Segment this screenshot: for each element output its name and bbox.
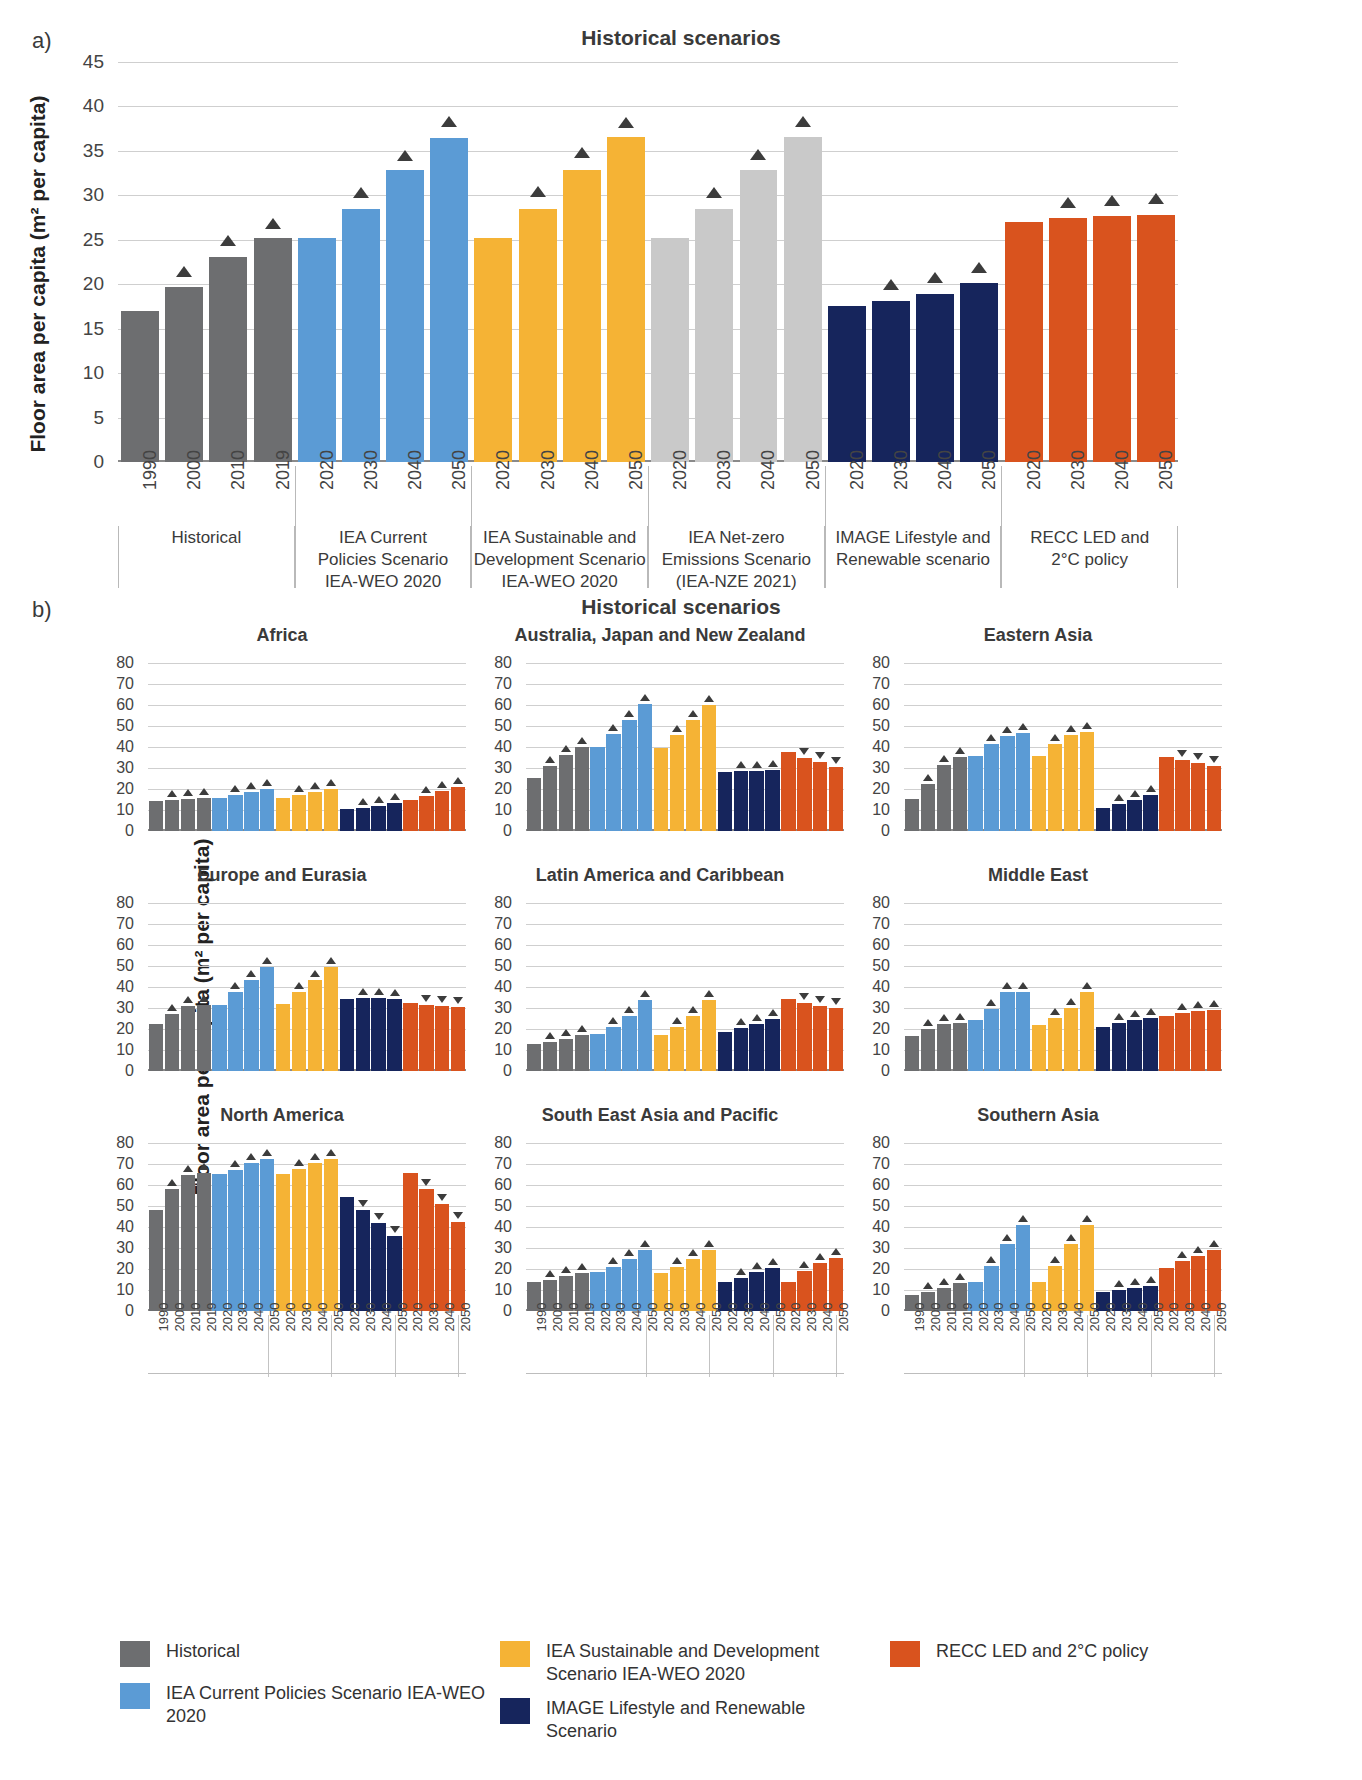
- scenario-group-label: Historical: [118, 526, 295, 588]
- y-tick: 10: [494, 1041, 512, 1059]
- y-tick: 20: [116, 1260, 134, 1278]
- trend-marker-up: [1114, 1013, 1124, 1020]
- trend-marker-up: [1066, 1234, 1076, 1241]
- bar: [356, 808, 370, 831]
- trend-marker-up: [545, 1270, 555, 1277]
- x-tick-label: 2000: [184, 450, 205, 490]
- y-tick: 60: [116, 1176, 134, 1194]
- trend-marker-down: [799, 748, 809, 755]
- x-tick: 2040: [621, 1315, 637, 1385]
- x-tick-label: 2030: [361, 450, 382, 490]
- subplot-plot-area: [904, 653, 1222, 831]
- bar-cell: [828, 1133, 844, 1311]
- y-tick: 0: [503, 1062, 512, 1080]
- y-tick: 30: [116, 999, 134, 1017]
- bar-cell: [701, 893, 717, 1071]
- panel-a-y-tick: 45: [83, 51, 104, 73]
- bar-cell: [243, 893, 259, 1071]
- legend-swatch: [500, 1641, 530, 1667]
- trend-marker-up: [1177, 1003, 1187, 1010]
- trend-marker-up: [262, 1149, 272, 1156]
- x-tick: 2020: [212, 1315, 228, 1385]
- bar-cell: [307, 1133, 323, 1311]
- bar: [527, 1044, 541, 1071]
- trend-marker-up: [199, 1163, 209, 1170]
- bar: [386, 170, 424, 462]
- trend-marker-up: [310, 970, 320, 977]
- legend-swatch: [120, 1641, 150, 1667]
- x-tick-label: 2010: [228, 450, 249, 490]
- bar: [651, 238, 689, 462]
- bar: [1016, 992, 1030, 1071]
- bar-cell: [701, 653, 717, 831]
- bar-cell: [1143, 653, 1159, 831]
- trend-marker-up: [736, 1018, 746, 1025]
- x-tick-label: 2020: [317, 450, 338, 490]
- bar-cell: [812, 893, 828, 1071]
- bar-cell: [685, 1133, 701, 1311]
- y-tick: 30: [116, 1239, 134, 1257]
- bar: [695, 209, 733, 462]
- y-tick: 40: [494, 978, 512, 996]
- x-tick: 2030: [1174, 1315, 1190, 1385]
- group-separator: [1001, 466, 1002, 588]
- bar: [149, 801, 163, 831]
- trend-marker-up: [246, 970, 256, 977]
- bar: [606, 1027, 620, 1071]
- trend-marker-up: [561, 1266, 571, 1273]
- panel-a-y-tick: 15: [83, 318, 104, 340]
- bar-cell: [355, 653, 371, 831]
- x-tick: 2019: [574, 1315, 590, 1385]
- bar-cell: [1031, 653, 1047, 831]
- trend-marker-up: [453, 777, 463, 784]
- y-tick: 10: [872, 1041, 890, 1059]
- subplot-plot-area: [148, 653, 466, 831]
- bar: [937, 1024, 951, 1071]
- group-separator: [1087, 1315, 1088, 1377]
- trend-marker-up: [220, 235, 236, 246]
- x-tick: 2020: [1031, 1315, 1047, 1385]
- legend-swatch: [500, 1698, 530, 1724]
- scenario-group-line: IEA Net-zero: [649, 527, 824, 549]
- bar-cell: [1159, 1133, 1175, 1311]
- bar-cell: [1111, 893, 1127, 1071]
- bar-cell: [637, 653, 653, 831]
- scenario-group-line: Historical: [119, 527, 294, 549]
- bar-cell: [387, 1133, 403, 1311]
- bar-cell: [936, 653, 952, 831]
- trend-marker-up: [608, 1257, 618, 1264]
- panel-b-title: Historical scenarios: [0, 595, 1362, 619]
- bar-cell: [653, 1133, 669, 1311]
- y-tick: 60: [872, 1176, 890, 1194]
- x-tick: 2020: [1095, 1315, 1111, 1385]
- trend-marker-up: [1146, 1008, 1156, 1015]
- x-tick: 2020: [275, 1315, 291, 1385]
- trend-marker-up: [1209, 1000, 1219, 1007]
- x-tick: 2040: [999, 1315, 1015, 1385]
- trend-marker-up: [624, 710, 634, 717]
- x-tick: 2020: [1159, 1315, 1175, 1385]
- trend-marker-up: [441, 116, 457, 127]
- scenario-group-label: RECC LED and2°C policy: [1001, 526, 1178, 588]
- trend-marker-up: [939, 1014, 949, 1021]
- panel-a-y-tick: 30: [83, 184, 104, 206]
- bar: [527, 778, 541, 831]
- trend-marker-up: [688, 710, 698, 717]
- bar: [212, 1174, 226, 1311]
- bar: [1080, 1225, 1094, 1311]
- bar-cell: [765, 653, 781, 831]
- y-tick: 70: [872, 1155, 890, 1173]
- bar-cell: [542, 653, 558, 831]
- subplot-x-tick-labels: 1990200020102019202020302040205020202030…: [148, 1315, 466, 1385]
- y-tick: 20: [872, 1260, 890, 1278]
- trend-marker-down: [437, 1194, 447, 1201]
- bar-cell: [1143, 893, 1159, 1071]
- bar-cell: [920, 893, 936, 1071]
- y-tick: 40: [494, 1218, 512, 1236]
- subplot-y-tick-labels: 80706050403020100: [848, 1133, 898, 1311]
- bar: [781, 999, 795, 1071]
- y-tick: 70: [494, 1155, 512, 1173]
- bar-cell: [1047, 653, 1063, 831]
- bar: [387, 999, 401, 1071]
- bar: [244, 980, 258, 1071]
